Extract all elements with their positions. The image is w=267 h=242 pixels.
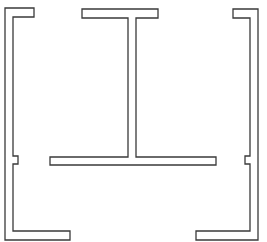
- right-bracket-shape: [196, 9, 258, 240]
- left-bracket-shape: [5, 8, 70, 240]
- center-t-beam-shape: [50, 9, 216, 165]
- diagram-canvas: [0, 0, 267, 242]
